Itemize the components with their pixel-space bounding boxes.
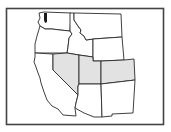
state-new-mexico bbox=[101, 80, 135, 117]
state-wyoming bbox=[93, 37, 124, 61]
map-figure: Western United States bbox=[0, 0, 171, 132]
western-us-map bbox=[0, 0, 171, 132]
